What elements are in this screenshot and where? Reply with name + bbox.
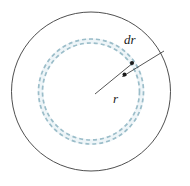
label-r: r [113, 91, 119, 106]
annulus-band-fill [41, 41, 142, 142]
outer-boundary-circle [12, 12, 171, 171]
annulus-diagram-svg: dr r [0, 0, 190, 186]
ring-outer-point-marker [130, 61, 134, 65]
figure-container: dr r [0, 0, 190, 186]
annulus-inner-dashed-circle [43, 43, 140, 140]
radius-line [95, 63, 134, 95]
label-dr: dr [124, 32, 137, 47]
ring-inner-point-marker [123, 73, 127, 77]
